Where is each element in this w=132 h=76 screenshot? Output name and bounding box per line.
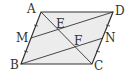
parallelogram-diagram: A D M E F N B C <box>0 0 132 76</box>
label-b: B <box>10 58 19 72</box>
label-c: C <box>94 59 103 73</box>
label-f: F <box>74 34 82 48</box>
label-n: N <box>105 31 116 45</box>
label-d: D <box>115 4 125 18</box>
label-a: A <box>26 2 36 16</box>
label-m: M <box>16 31 28 45</box>
label-e: E <box>56 17 65 31</box>
